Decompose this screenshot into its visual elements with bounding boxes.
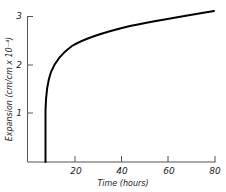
expansion-time-chart: 1 2 3 20 40 60 80 Time (hours) Expansion… [0,0,226,192]
expansion-curve [46,11,215,162]
y-tick-label-2: 2 [16,60,22,70]
y-tick-label-1: 1 [16,108,22,118]
x-ticks: 20 40 60 80 [70,156,221,176]
x-tick-label-60: 60 [163,166,175,176]
y-axis-label: Expansion (cm/cm x 10⁻⁴) [5,37,14,142]
y-ticks: 1 2 3 [16,11,33,118]
x-tick-label-40: 40 [116,166,128,176]
x-axis-label: Time (hours) [97,179,148,188]
x-tick-label-20: 20 [70,166,82,176]
x-tick-label-80: 80 [209,166,221,176]
y-tick-label-3: 3 [16,11,22,21]
